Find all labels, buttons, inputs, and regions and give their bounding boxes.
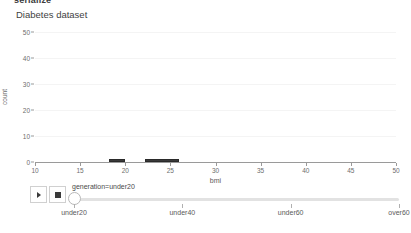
player-widget: generation=under20 under20under40under60… (0, 182, 411, 233)
x-tick-mark (396, 163, 397, 166)
y-tick-mark (31, 136, 34, 137)
plot-area (35, 32, 396, 162)
slider-tick-label[interactable]: under20 (61, 209, 87, 216)
generation-slider[interactable]: generation=under20 under20under40under60… (68, 182, 403, 233)
x-tick-label: 45 (347, 167, 354, 174)
y-tick-mark (31, 58, 34, 59)
x-tick-label: 10 (31, 167, 38, 174)
x-tick-label: 40 (302, 167, 309, 174)
y-tick-label: 0 (26, 159, 30, 166)
stop-button[interactable] (49, 186, 66, 203)
x-tick-label: 25 (167, 167, 174, 174)
play-button[interactable] (30, 186, 47, 203)
y-tick-mark (31, 84, 34, 85)
x-tick-mark (170, 163, 171, 166)
y-tick-label: 20 (23, 107, 30, 114)
x-tick-mark (306, 163, 307, 166)
slider-tick-label[interactable]: under60 (278, 209, 304, 216)
x-tick-mark (35, 163, 36, 166)
x-tick-mark (216, 163, 217, 166)
x-tick-label: 15 (77, 167, 84, 174)
slider-track[interactable] (74, 198, 399, 201)
y-tick-mark (31, 110, 34, 111)
page-title: Diabetes dataset (16, 9, 87, 20)
slider-tick-label[interactable]: over60 (388, 209, 409, 216)
x-tick-label: 35 (257, 167, 264, 174)
slider-value-label: generation=under20 (72, 183, 135, 190)
x-tick-label: 30 (212, 167, 219, 174)
x-tick-label: 50 (392, 167, 399, 174)
y-axis-title: count (1, 89, 8, 105)
player-button-group (30, 186, 66, 203)
x-tick-mark (351, 163, 352, 166)
y-tick-label: 40 (23, 55, 30, 62)
play-icon (37, 192, 41, 198)
slider-tick-mark (399, 204, 400, 208)
y-tick-mark (31, 162, 34, 163)
x-tick-mark (80, 163, 81, 166)
slider-tick-mark (291, 204, 292, 208)
app-header-title: serialize (14, 0, 51, 5)
x-tick-mark (125, 163, 126, 166)
slider-tick-mark (74, 204, 75, 208)
x-tick-mark (261, 163, 262, 166)
stop-icon (55, 192, 61, 198)
x-tick-label: 20 (122, 167, 129, 174)
y-tick-label: 50 (23, 29, 30, 36)
y-tick-mark (31, 32, 34, 33)
app-header-strip: serialize (0, 0, 411, 6)
y-tick-label: 30 (23, 81, 30, 88)
slider-tick-mark (182, 204, 183, 208)
y-tick-label: 10 (23, 133, 30, 140)
slider-tick-label[interactable]: under40 (169, 209, 195, 216)
histogram-figure: count 01020304050 101520253035404550 bmi (0, 22, 411, 180)
